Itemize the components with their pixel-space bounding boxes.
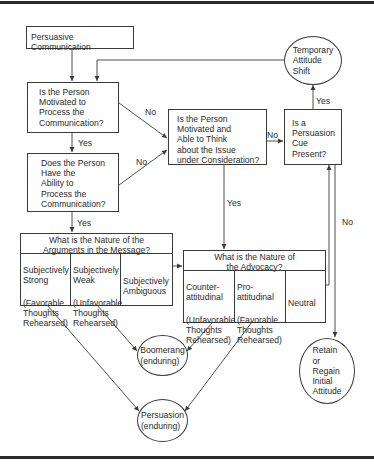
arguments-col-weak: Subjectively Weak (Unfavorable Thoughts … [71, 254, 121, 305]
col-sub: (Favorable Thoughts Rehearsed) [237, 315, 283, 345]
node-persuasive-communication: Persuasive Communication [26, 26, 134, 49]
arguments-col-strong: Subjectively Strong (Favorable Thoughts … [21, 254, 71, 305]
edge-label-think-no: No [267, 130, 278, 140]
col-title: Subjectively Weak [73, 265, 118, 285]
advocacy-nature-table: What is the Nature of the Advocacy? Coun… [183, 250, 326, 323]
edge-label-motivation-yes: Yes [78, 138, 92, 148]
advocacy-col-pro: Pro- attitudinal (Favorable Thoughts Reh… [235, 271, 286, 322]
col-title: Pro- attitudinal [237, 282, 283, 302]
outcome-label: Temporary Attitude Shift [293, 45, 334, 76]
outcome-boomerang: Boomerang (enduring) [137, 335, 188, 376]
node-label: Is the Person Motivated to Process the C… [39, 87, 103, 128]
edge-label-cue-yes: Yes [316, 96, 330, 106]
col-title: Counter- attitudinal [186, 282, 232, 302]
edge-label-cue-no: No [342, 217, 353, 227]
edge-label-ability-yes: Yes [77, 218, 91, 228]
col-title: Subjectively Ambiguous [123, 276, 170, 296]
outcome-label: Retain or Regain Initial Attitude [312, 345, 341, 396]
outcome-persuasion: Persuasion (enduring) [137, 399, 188, 442]
advocacy-header: What is the Nature of the Advocacy? [184, 251, 325, 271]
col-sub: (Favorable Thoughts Rehearsed) [23, 298, 68, 328]
outcome-retain-initial-attitude: Retain or Regain Initial Attitude [299, 338, 355, 404]
node-label: Does the Person Have the Ability to Proc… [41, 158, 105, 209]
arguments-nature-table: What is the Nature of the Arguments in t… [20, 233, 173, 306]
col-sub: (Unfavorable Thoughts Rehearsed) [186, 315, 232, 345]
outcome-label: Persuasion (enduring) [141, 410, 184, 430]
node-label: Is the Person Motivated and Able to Thin… [177, 114, 259, 165]
arguments-col-ambiguous: Subjectively Ambiguous [121, 254, 172, 305]
node-label: Persuasive Communication [31, 32, 91, 52]
arguments-header: What is the Nature of the Arguments in t… [21, 234, 172, 254]
node-persuasion-cue-present: Is a Persuasion Cue Present? [284, 109, 342, 165]
col-title: Subjectively Strong [23, 265, 68, 285]
node-ability-to-process: Does the Person Have the Ability to Proc… [27, 153, 119, 212]
edge-label-ability-no: No [136, 157, 147, 167]
col-title: Neutral [288, 298, 323, 308]
col-sub: (Unfavorable Thoughts Rehearsed) [73, 298, 118, 328]
node-motivated-to-process: Is the Person Motivated to Process the C… [27, 82, 119, 133]
advocacy-col-counter: Counter- attitudinal (Unfavorable Though… [184, 271, 235, 322]
edge-label-think-yes: Yes [227, 198, 241, 208]
edge-label-motivation-no: No [145, 107, 156, 117]
outcome-label: Boomerang (enduring) [140, 345, 184, 365]
outcome-temporary-attitude-shift: Temporary Attitude Shift [284, 36, 342, 85]
node-label: Is a Persuasion Cue Present? [292, 118, 335, 159]
node-motivated-and-able-to-think: Is the Person Motivated and Able to Thin… [168, 109, 267, 165]
advocacy-col-neutral: Neutral [286, 271, 325, 322]
